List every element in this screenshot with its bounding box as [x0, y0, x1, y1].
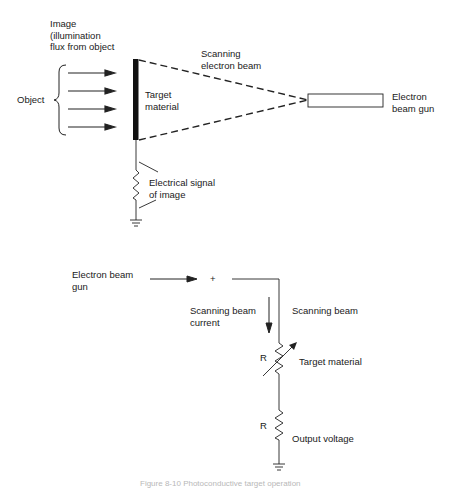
resistor-r1-label: R	[260, 352, 267, 364]
object-label: Object	[17, 94, 44, 106]
bottom-gun-label: Electron beam gun	[72, 269, 133, 292]
gun-label-line-1: Electron	[392, 91, 434, 103]
scanning-current-label: Scanning beam current	[190, 305, 256, 328]
signal-label-line-2: of image	[149, 189, 215, 201]
diagram-canvas	[0, 0, 461, 489]
beam-label-line-1: Scanning	[201, 48, 261, 60]
current-label-line-2: current	[190, 317, 256, 329]
electron-gun-label: Electron beam gun	[392, 91, 434, 114]
image-flux-label: Image (illumination flux from object	[50, 18, 114, 53]
gun-arrow	[150, 276, 197, 282]
electrical-signal-label: Electrical signal of image	[149, 177, 215, 200]
output-voltage-label: Output voltage	[292, 433, 354, 445]
illumination-arrows	[68, 70, 115, 130]
image-label-line-2: (illumination	[50, 30, 114, 42]
object-brace	[54, 65, 66, 135]
bottom-gun-label-line-2: gun	[72, 281, 133, 293]
image-label-line-3: flux from object	[50, 41, 114, 53]
current-label-line-1: Scanning beam	[190, 305, 256, 317]
gun-label-line-2: beam gun	[392, 103, 434, 115]
image-label-line-1: Image	[50, 18, 114, 30]
target-label-line-1: Target	[145, 89, 179, 101]
signal-label-line-1: Electrical signal	[149, 177, 215, 189]
figure-caption: Figure 8-10 Photoconductive target opera…	[140, 478, 301, 489]
resistor-r2-label: R	[260, 420, 267, 432]
target-material-bar	[133, 59, 139, 140]
bottom-gun-label-line-1: Electron beam	[72, 269, 133, 281]
bottom-target-label: Target material	[299, 356, 362, 368]
current-arrow	[266, 297, 272, 333]
scanning-beam-label: Scanning electron beam	[201, 48, 261, 71]
plus-sign: +	[210, 273, 216, 285]
target-material-label: Target material	[145, 89, 179, 112]
electron-gun-box	[308, 94, 383, 107]
bottom-beam-label: Scanning beam	[292, 305, 358, 317]
target-label-line-2: material	[145, 101, 179, 113]
beam-label-line-2: electron beam	[201, 60, 261, 72]
